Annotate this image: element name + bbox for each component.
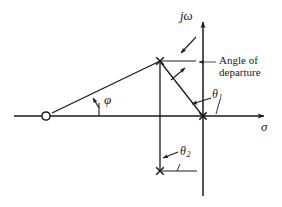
theta2-angle-arrow <box>163 152 178 158</box>
angle-of-departure-leader-upper <box>181 37 196 53</box>
theta2-reference-tick <box>177 164 180 171</box>
theta2-subscript: 2 <box>186 150 191 159</box>
theta1-angle-label: θ1 <box>212 88 222 103</box>
theta2-angle-label: θ2 <box>180 145 190 160</box>
phi-angle-arrow <box>93 98 99 116</box>
annotation-line-2: departure <box>219 66 261 78</box>
angle-of-departure-annotation: Angle of departure <box>219 54 261 79</box>
phi-angle-label: φ <box>104 93 111 108</box>
vector-origin-to-pole <box>161 62 203 115</box>
angle-of-departure-leader-inner <box>171 68 185 80</box>
theta1-subscript: 1 <box>218 93 223 102</box>
pole-zero-diagram-canvas <box>0 0 282 207</box>
imaginary-axis-label: jω <box>180 9 193 24</box>
annotation-line-1: Angle of <box>219 54 261 66</box>
root-locus-figure: jω σ φ θ1 θ2 Angle of departure <box>0 0 282 207</box>
open-loop-zero-marker <box>42 112 50 120</box>
theta1-angle-arrow <box>192 98 211 104</box>
real-axis-label: σ <box>261 120 267 135</box>
